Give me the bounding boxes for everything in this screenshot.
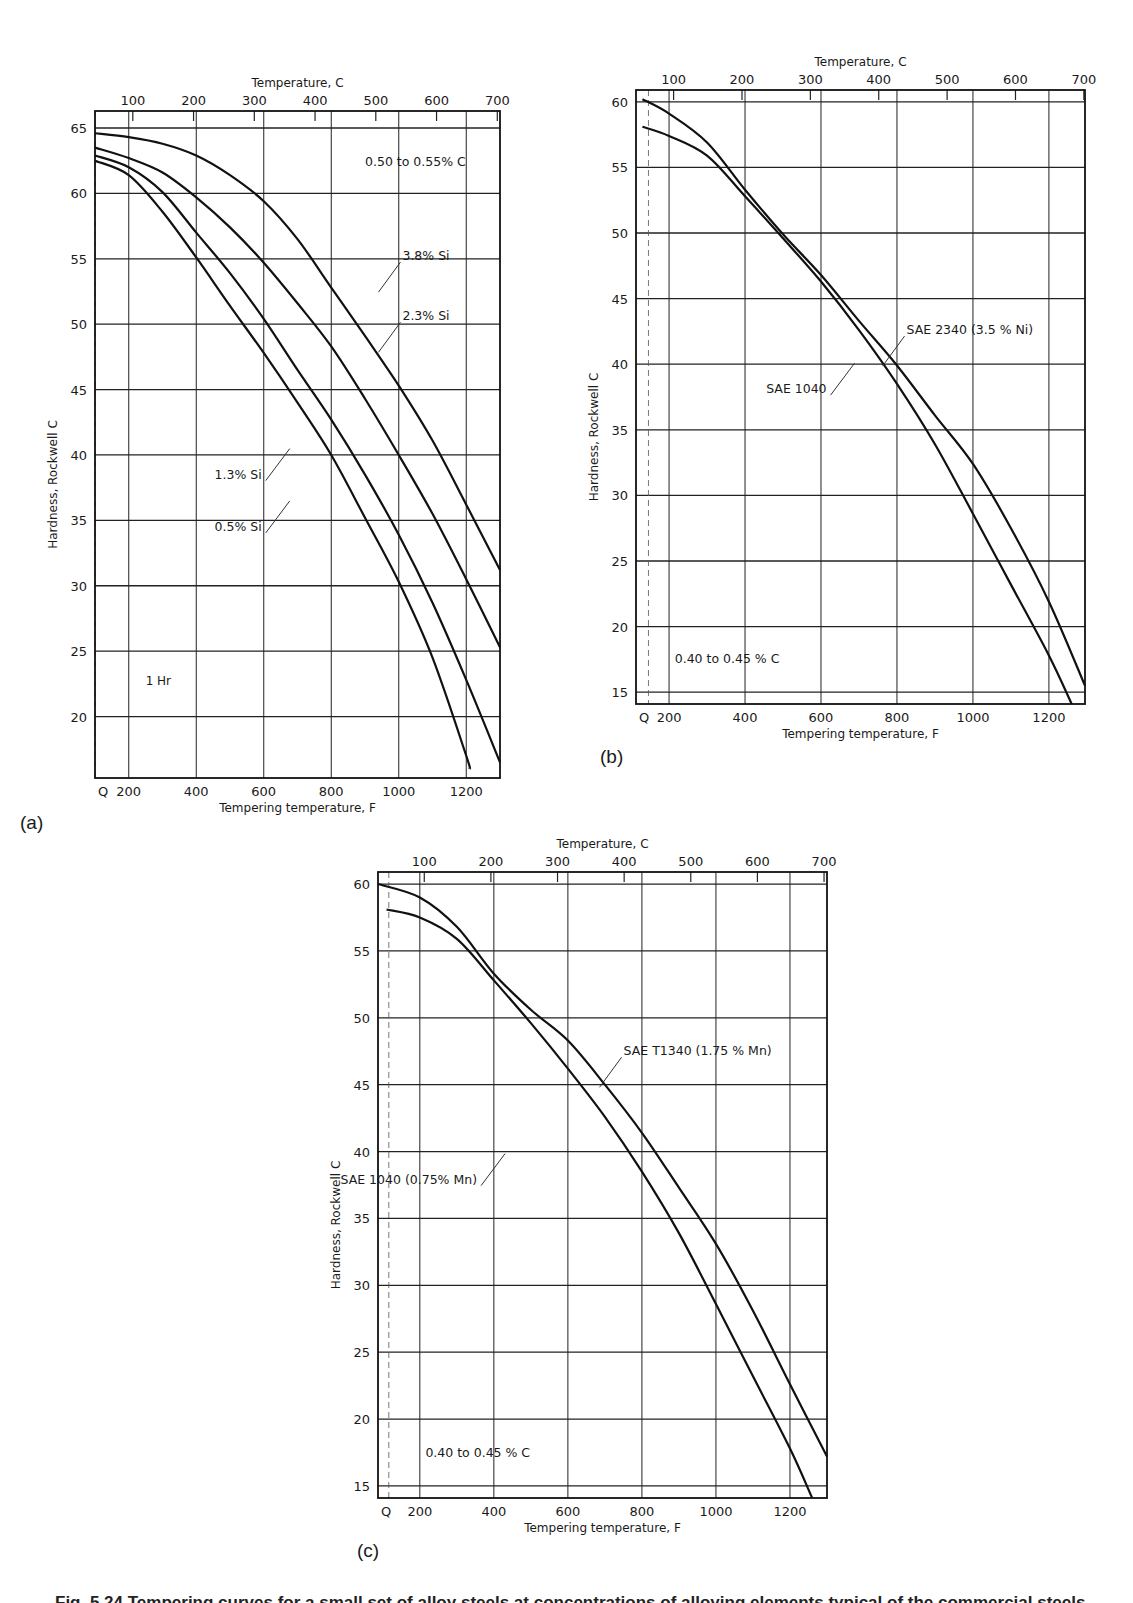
x-tick-label: Q <box>381 1504 391 1519</box>
y-tick-label: 35 <box>353 1211 370 1226</box>
x-tick-label: 1200 <box>773 1504 806 1519</box>
series-label: SAE T1340 (1.75 % Mn) <box>624 1043 772 1058</box>
leader-line <box>481 1154 505 1186</box>
series-curve <box>387 909 813 1498</box>
y-tick-label: 25 <box>353 1345 370 1360</box>
y-tick-label: 45 <box>353 1078 370 1093</box>
y-tick-label: 40 <box>353 1145 370 1160</box>
x-tick-label: 200 <box>407 1504 432 1519</box>
leader-line <box>600 1057 622 1087</box>
x2-tick-label: 700 <box>812 854 837 869</box>
x-tick-label: 400 <box>481 1504 506 1519</box>
annotation-carbon: 0.40 to 0.45 % C <box>425 1445 530 1460</box>
y-tick-label: 30 <box>353 1278 370 1293</box>
x-axis-title: Tempering temperature, F <box>523 1521 681 1535</box>
x2-axis-title: Temperature, C <box>555 837 648 851</box>
y-tick-label: 60 <box>353 877 370 892</box>
x2-tick-label: 600 <box>745 854 770 869</box>
figure-caption: Fig. 5.24 Tempering curves for a small s… <box>55 1590 1095 1603</box>
panel-label-b: (b) <box>600 746 623 768</box>
x2-tick-label: 200 <box>478 854 503 869</box>
x2-tick-label: 100 <box>412 854 437 869</box>
x2-tick-label: 300 <box>545 854 570 869</box>
x-tick-label: 600 <box>555 1504 580 1519</box>
y-tick-label: 55 <box>353 944 370 959</box>
y-tick-label: 15 <box>353 1479 370 1494</box>
y-tick-label: 50 <box>353 1011 370 1026</box>
y-tick-label: 20 <box>353 1412 370 1427</box>
series-label: SAE 1040 (0.75% Mn) <box>341 1172 478 1187</box>
panel-label-c: (c) <box>357 1540 379 1562</box>
series-curve <box>378 884 827 1456</box>
x2-tick-label: 400 <box>612 854 637 869</box>
panel-label-a: (a) <box>20 812 43 834</box>
chart-c: 15202530354045505560Q2004006008001000120… <box>0 0 1133 1603</box>
x2-tick-label: 500 <box>678 854 703 869</box>
x-tick-label: 1000 <box>699 1504 732 1519</box>
x-tick-label: 800 <box>630 1504 655 1519</box>
